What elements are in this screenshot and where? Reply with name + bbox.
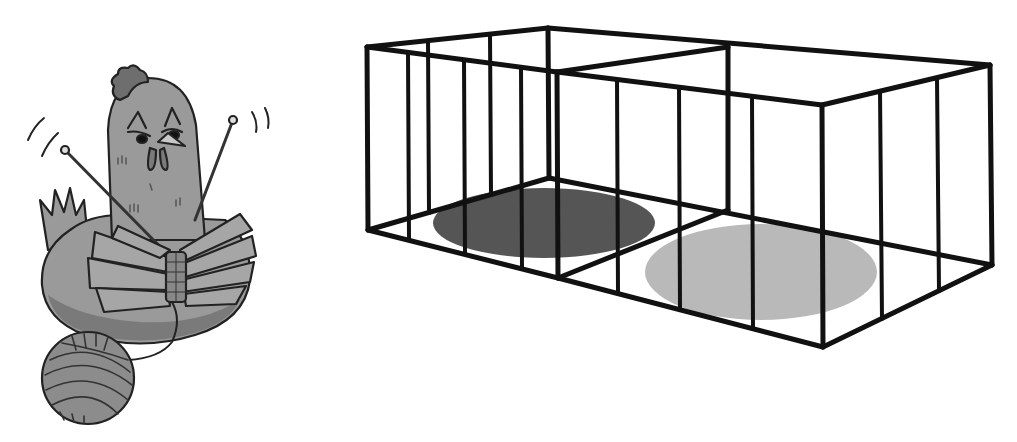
hen-illustration [28,65,269,424]
needle-cap-left [61,146,69,154]
motion-lines-left-icon [28,118,58,156]
illustration-canvas [0,0,1017,442]
yarn-ball [42,332,134,424]
hen-eye-left [137,135,147,143]
knitting-needle-right [195,120,233,220]
motion-lines-right-icon [252,108,269,132]
needle-cap-right [229,116,237,124]
cage-illustration [367,28,992,347]
